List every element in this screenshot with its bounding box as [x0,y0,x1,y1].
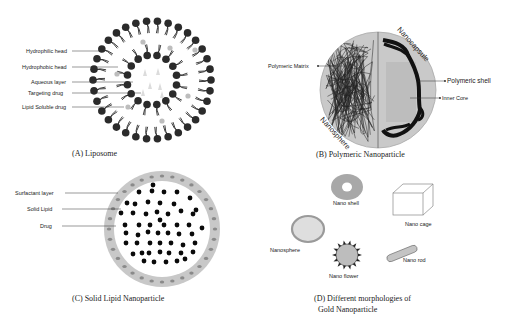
label-drug: Drug [40,223,52,229]
figure-canvas [0,0,505,321]
label-polymeric-shell: Polymeric shell [447,77,491,84]
solid-lipid-nanoparticle-diagram [62,171,220,287]
caption-a: (A) Liposome [72,149,117,158]
label-hydrophilic-head: Hydrophilic head [26,48,67,54]
caption-b: (B) Polymeric Nanoparticle [316,150,405,159]
label-polymeric-matrix: Polymeric Matrix [268,63,309,69]
label-nano-flower: Nano flower [329,273,358,279]
label-nano-shell: Nano shell [333,200,359,206]
label-nano-rod: Nano rod [403,257,426,263]
label-targeting-drug: Targeting drug [28,90,63,96]
label-hydrophobic-head: Hydrophobic head [22,64,67,70]
caption-d-line1: (D) Different morphologies of [314,294,411,303]
caption-c: (C) Solid Lipid Nanoparticle [72,294,164,303]
label-nanosphere-gold: Nanosphere [270,247,300,253]
liposome-pointer-lines [72,51,141,107]
caption-d-line2: Gold Nanoparticle [318,305,377,314]
label-inner-core: Inner Core [442,95,468,101]
label-lipid-soluble-drug: Lipid Soluble drug [22,104,66,110]
label-nano-cage: Nano cage [405,221,432,227]
label-surfactant-layer: Surfactant layer [15,190,54,196]
label-aqueous-layer: Aqueous layer [31,79,66,85]
liposome-diagram [89,17,215,142]
label-solid-lipid: Solid Lipid [27,206,52,212]
